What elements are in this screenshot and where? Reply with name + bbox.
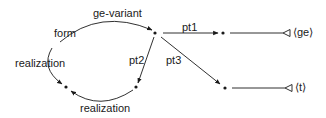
node-right xyxy=(134,85,137,88)
edge-realization-bottom xyxy=(71,90,133,101)
label-terminal-ge: ⟨ge⟩ xyxy=(293,27,313,38)
label-ge-variant: ge-variant xyxy=(93,8,142,19)
label-terminal-t: ⟨t⟩ xyxy=(295,82,306,93)
node-pt1 xyxy=(221,31,224,34)
label-pt3: pt3 xyxy=(166,55,181,66)
label-form: form xyxy=(54,28,76,39)
hollow-triangle-icon xyxy=(283,30,290,37)
node-top xyxy=(153,31,156,34)
label-realization-left: realization xyxy=(15,58,65,69)
label-pt1: pt1 xyxy=(182,22,197,33)
node-pt3 xyxy=(223,86,226,89)
label-realization-bottom: realization xyxy=(80,103,130,114)
hollow-triangle-icon xyxy=(285,85,292,92)
node-left xyxy=(64,85,67,88)
label-pt2: pt2 xyxy=(129,55,144,66)
diagram-canvas: ge-variant form realization realization … xyxy=(0,0,326,118)
